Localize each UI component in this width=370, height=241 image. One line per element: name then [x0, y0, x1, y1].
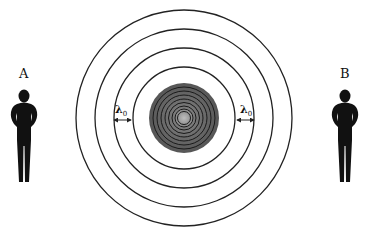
wave-source: [149, 83, 219, 153]
lambda-subscript: 0: [248, 110, 252, 118]
lambda-symbol: λ: [240, 103, 248, 116]
person-b-icon: [332, 90, 358, 183]
wavelength-label-left: λ0: [115, 103, 127, 118]
observer-a-label: A: [19, 66, 28, 81]
lambda-symbol: λ: [115, 103, 123, 116]
diagram-canvas: [0, 0, 370, 241]
wavelength-label-right: λ0: [240, 103, 252, 118]
lambda-subscript: 0: [123, 110, 127, 118]
person-a-icon: [11, 90, 37, 183]
doppler-diagram: A B λ0 λ0: [0, 0, 370, 241]
observer-b-label: B: [340, 66, 350, 81]
